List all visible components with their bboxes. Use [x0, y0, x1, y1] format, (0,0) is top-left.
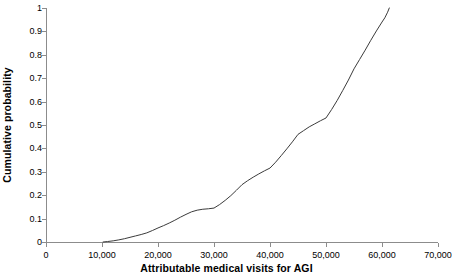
x-axis-title: Attributable medical visits for AGI	[0, 262, 453, 274]
y-axis-tick-mark	[42, 78, 46, 79]
x-axis-tick-label: 40,000	[256, 250, 284, 260]
x-axis-tick-mark	[270, 243, 271, 247]
y-axis-tick-labels: 00.10.20.30.40.50.60.70.80.91	[16, 0, 42, 250]
x-axis-tick-mark	[46, 243, 47, 247]
x-axis-tick-label: 10,000	[88, 250, 116, 260]
y-axis-tick-label: 0	[16, 238, 42, 247]
x-axis-tick-mark	[438, 243, 439, 247]
plot-area	[46, 8, 438, 242]
x-axis-tick-label: 20,000	[144, 250, 172, 260]
y-axis-tick-label: 0.4	[16, 144, 42, 153]
y-axis-tick-label: 0.8	[16, 50, 42, 59]
y-axis-tick-label: 0.1	[16, 214, 42, 223]
y-axis-title: Cumulative probability	[0, 0, 14, 250]
y-axis-tick-mark	[42, 31, 46, 32]
y-axis-tick-mark	[42, 8, 46, 9]
x-axis-tick-label: 0	[43, 250, 48, 260]
cumulative-probability-curve	[46, 8, 438, 242]
x-axis-tick-label: 60,000	[368, 250, 396, 260]
y-axis-tick-label: 0.3	[16, 167, 42, 176]
y-axis-tick-mark	[42, 195, 46, 196]
y-axis-tick-mark	[42, 148, 46, 149]
curve-path	[103, 8, 389, 242]
x-axis-tick-label: 50,000	[312, 250, 340, 260]
x-axis-tick-mark	[214, 243, 215, 247]
cumulative-probability-chart: Cumulative probability 00.10.20.30.40.50…	[0, 0, 453, 278]
x-axis-tick-label: 70,000	[424, 250, 452, 260]
y-axis-tick-mark	[42, 125, 46, 126]
y-axis-title-text: Cumulative probability	[1, 67, 13, 182]
y-axis-tick-label: 0.6	[16, 97, 42, 106]
x-axis-tick-mark	[102, 243, 103, 247]
y-axis-tick-label: 1	[16, 4, 42, 13]
x-axis-tick-mark	[326, 243, 327, 247]
x-axis-tick-label: 30,000	[200, 250, 228, 260]
x-axis-tick-mark	[158, 243, 159, 247]
y-axis-tick-mark	[42, 102, 46, 103]
y-axis-tick-mark	[42, 55, 46, 56]
y-axis-tick-label: 0.2	[16, 191, 42, 200]
y-axis-tick-mark	[42, 219, 46, 220]
y-axis-tick-label: 0.7	[16, 74, 42, 83]
y-axis-tick-mark	[42, 172, 46, 173]
y-axis-tick-label: 0.9	[16, 27, 42, 36]
y-axis-tick-label: 0.5	[16, 121, 42, 130]
x-axis-tick-mark	[382, 243, 383, 247]
